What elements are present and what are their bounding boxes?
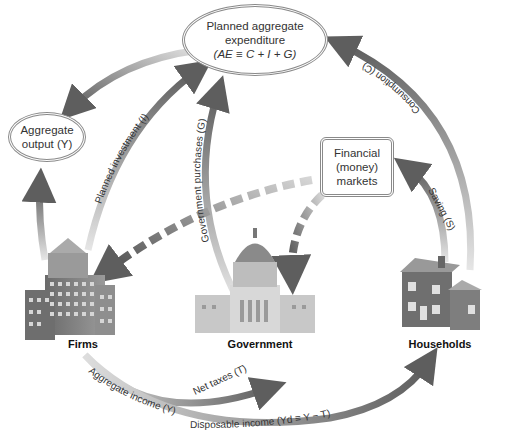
firms-label: Firms: [58, 338, 108, 350]
aggregate-output-node: Aggregate output (Y): [8, 112, 86, 162]
svg-text:Planned investment (I): Planned investment (I): [93, 111, 151, 205]
firms-to-output-arrow: [40, 185, 45, 260]
government-label: Government: [220, 338, 300, 350]
financial-markets-node: Financial (money) markets: [320, 137, 394, 197]
output-line1: Aggregate: [20, 123, 73, 137]
consumption-label: Consumption (C): [360, 61, 422, 116]
financial-line3: markets: [337, 174, 378, 188]
ae-formula: (AE ≡ C + I + G): [214, 47, 297, 61]
planned-aggregate-expenditure-node: Planned aggregate expenditure (AE ≡ C + …: [182, 4, 328, 76]
planned-investment-label: Planned investment (I): [93, 111, 151, 205]
households-label: Households: [400, 338, 480, 350]
svg-text:Consumption (C): Consumption (C): [360, 61, 422, 116]
financial-line1: Financial: [334, 146, 380, 160]
output-line2: output (Y): [22, 137, 73, 151]
ae-line2: expenditure: [225, 33, 285, 47]
svg-text:Aggregate income (Y): Aggregate income (Y): [87, 365, 177, 416]
net-taxes-label: Net taxes (T): [191, 362, 248, 396]
financial-to-government-arrow: [292, 195, 322, 275]
financial-line2: (money): [336, 160, 378, 174]
aggregate-income-label: Aggregate income (Y): [87, 365, 177, 416]
firms-building-icon: [25, 238, 115, 340]
ae-line1: Planned aggregate: [206, 19, 303, 33]
